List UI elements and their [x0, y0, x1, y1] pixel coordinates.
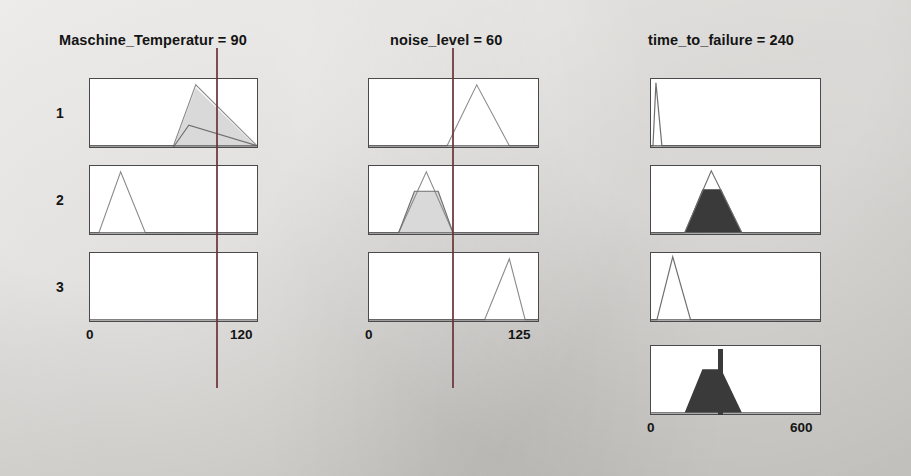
input-value-line-machine-temperature[interactable]	[216, 48, 218, 388]
rule-panel-machine-temperature-3[interactable]	[89, 252, 258, 322]
axis-max-time-to-failure: 600	[790, 420, 813, 435]
rule-panel-time-to-failure-2[interactable]	[650, 165, 821, 235]
axis-max-noise-level: 125	[508, 327, 531, 342]
input-value-line-noise-level[interactable]	[452, 48, 454, 388]
aggregate-output-panel-time-to-failure[interactable]	[650, 345, 821, 415]
axis-min-noise-level: 0	[365, 327, 373, 342]
rule-panel-time-to-failure-3[interactable]	[650, 252, 821, 322]
rule-panel-machine-temperature-1[interactable]	[89, 78, 258, 148]
column-title-machine-temperature: Maschine_Temperatur = 90	[59, 32, 247, 48]
rule-panel-machine-temperature-2[interactable]	[89, 165, 258, 235]
rule-viewer-canvas: Maschine_Temperatur = 90 noise_level = 6…	[0, 0, 911, 476]
column-title-noise-level: noise_level = 60	[390, 32, 502, 48]
column-title-time-to-failure: time_to_failure = 240	[648, 32, 794, 48]
axis-max-machine-temperature: 120	[230, 327, 253, 342]
rule-row-label-2: 2	[56, 192, 64, 208]
rule-row-label-3: 3	[56, 279, 64, 295]
axis-min-machine-temperature: 0	[86, 327, 94, 342]
rule-row-label-1: 1	[56, 105, 64, 121]
defuzzified-output-line-time-to-failure[interactable]	[718, 349, 723, 415]
axis-min-time-to-failure: 0	[647, 420, 655, 435]
rule-panel-time-to-failure-1[interactable]	[650, 78, 821, 148]
